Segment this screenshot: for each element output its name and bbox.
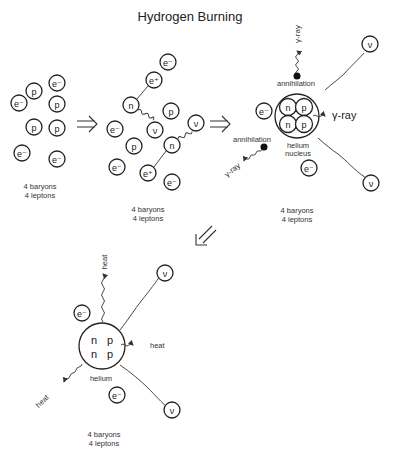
svg-text:n: n <box>169 141 174 151</box>
lepton-count: 4 leptons <box>282 215 313 224</box>
svg-text:e⁻: e⁻ <box>304 164 314 174</box>
neutrino: ν <box>188 115 204 131</box>
electron: e⁻ <box>160 54 176 70</box>
electron: e⁻ <box>107 121 123 137</box>
electron: e⁻ <box>11 95 27 111</box>
svg-text:p: p <box>31 87 36 97</box>
svg-text:p: p <box>54 100 59 110</box>
helium-nucleus: n p n p <box>79 323 125 369</box>
svg-text:e⁻: e⁻ <box>17 149 27 159</box>
proton: p <box>26 83 42 99</box>
proton: p <box>163 103 179 119</box>
double-arrow-down-left-icon <box>196 226 216 245</box>
svg-text:p: p <box>301 120 306 130</box>
lepton-count: 4 leptons <box>25 191 56 200</box>
svg-text:p: p <box>107 334 113 346</box>
stage-4: heat ν e⁻ n p n p helium heat heat e⁻ ν … <box>34 254 180 448</box>
hydrogen-burning-diagram: Hydrogen Burning e⁻ p e⁻ p p p e⁻ e⁻ 4 b… <box>0 0 397 462</box>
electron: e⁻ <box>49 75 65 91</box>
gamma-ray-label: γ-ray <box>293 25 302 43</box>
svg-text:ν: ν <box>163 269 168 279</box>
svg-text:n: n <box>128 101 133 111</box>
proton: p <box>49 120 65 136</box>
svg-text:ν: ν <box>153 126 158 136</box>
heat-label: heat <box>100 254 109 270</box>
svg-text:n: n <box>91 348 97 360</box>
baryon-count: 4 baryons <box>132 205 165 214</box>
svg-text:e⁻: e⁻ <box>52 79 62 89</box>
neutrino: ν <box>164 402 180 418</box>
gamma-ray-label: γ-ray <box>332 109 357 121</box>
svg-text:e⁻: e⁻ <box>112 163 122 173</box>
heat-label: heat <box>150 341 166 350</box>
double-arrow-right-icon <box>77 116 97 132</box>
electron: e⁻ <box>164 174 180 190</box>
electron: e⁻ <box>74 305 90 321</box>
svg-text:p: p <box>31 123 36 133</box>
positron: e⁺ <box>140 165 156 181</box>
svg-text:n: n <box>91 334 97 346</box>
svg-text:ν: ν <box>368 40 373 50</box>
heat-label: heat <box>34 392 51 409</box>
svg-text:n: n <box>285 120 290 130</box>
svg-text:p: p <box>107 348 113 360</box>
electron: e⁻ <box>256 103 272 119</box>
positron: e⁺ <box>146 72 162 88</box>
svg-text:e⁻: e⁻ <box>163 58 173 68</box>
annihilation-label: annihilation <box>233 135 271 144</box>
electron: e⁻ <box>49 151 65 167</box>
svg-text:ν: ν <box>369 179 374 189</box>
gamma-ray-label: γ-ray <box>223 161 243 179</box>
svg-text:e⁻: e⁻ <box>112 391 122 401</box>
lepton-count: 4 leptons <box>89 439 120 448</box>
electron: e⁻ <box>301 160 317 176</box>
neutron: n <box>164 137 180 153</box>
svg-text:n: n <box>285 103 290 113</box>
neutrino: ν <box>147 122 163 138</box>
neutrino: ν <box>363 175 379 191</box>
helium-nucleus: n p n p <box>275 94 319 138</box>
stage-3: γ-ray annihilation ν n p n p helium nucl… <box>223 25 379 224</box>
neutron: n <box>123 97 139 113</box>
svg-text:e⁻: e⁻ <box>110 125 120 135</box>
diagram-title: Hydrogen Burning <box>138 9 243 24</box>
proton: p <box>26 119 42 135</box>
double-arrow-right-icon <box>210 116 230 132</box>
neutrino: ν <box>362 36 378 52</box>
svg-text:e⁻: e⁻ <box>52 155 62 165</box>
svg-text:e⁺: e⁺ <box>143 169 153 179</box>
neutrino: ν <box>157 265 173 281</box>
stage-2: e⁻ e⁺ n p e⁻ ν ν p n e⁻ e⁺ e⁻ 4 baryons … <box>107 54 204 223</box>
svg-text:e⁻: e⁻ <box>14 99 24 109</box>
svg-text:e⁺: e⁺ <box>149 76 159 86</box>
svg-text:ν: ν <box>170 406 175 416</box>
helium-label: helium <box>90 374 112 383</box>
stage-1: e⁻ p e⁻ p p p e⁻ e⁻ 4 baryons 4 leptons <box>11 75 65 200</box>
svg-text:p: p <box>131 142 136 152</box>
svg-text:e⁻: e⁻ <box>259 107 269 117</box>
electron: e⁻ <box>109 159 125 175</box>
baryon-count: 4 baryons <box>281 206 314 215</box>
svg-text:p: p <box>168 107 173 117</box>
baryon-count: 4 baryons <box>88 430 121 439</box>
proton: p <box>49 96 65 112</box>
svg-text:e⁻: e⁻ <box>167 178 177 188</box>
electron: e⁻ <box>109 387 125 403</box>
svg-text:e⁻: e⁻ <box>77 309 87 319</box>
svg-text:p: p <box>301 103 306 113</box>
proton: p <box>126 138 142 154</box>
electron: e⁻ <box>14 145 30 161</box>
lepton-count: 4 leptons <box>133 214 164 223</box>
baryon-count: 4 baryons <box>24 182 57 191</box>
svg-text:ν: ν <box>194 119 199 129</box>
svg-text:p: p <box>54 124 59 134</box>
annihilation-label: annihilation <box>277 79 315 88</box>
helium-nucleus-label: nucleus <box>285 149 311 158</box>
